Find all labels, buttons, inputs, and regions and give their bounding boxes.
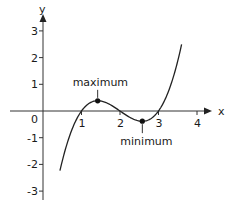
maximum-point: [95, 98, 100, 103]
y-tick-label: 3: [31, 25, 38, 38]
x-axis-label: x: [218, 105, 225, 118]
minimum-label: minimum: [120, 135, 172, 148]
cubic-graph: xy0 1234321-1-2-3 maximumminimum: [0, 0, 238, 210]
y-tick-label: 1: [31, 78, 38, 91]
x-tick-label: 4: [194, 117, 201, 130]
cubic-curve: [60, 44, 182, 170]
maximum-label: maximum: [73, 76, 128, 89]
x-tick-label: 1: [79, 117, 86, 130]
ticks: 1234321-1-2-3: [27, 25, 201, 198]
y-tick-label: -1: [27, 132, 38, 145]
x-tick-label: 3: [156, 117, 163, 130]
minimum-point: [140, 119, 145, 124]
origin-label: 0: [31, 113, 38, 126]
y-tick-label: 2: [31, 52, 38, 65]
axes: xy0: [10, 3, 225, 200]
y-axis-label: y: [39, 3, 46, 16]
x-tick-label: 2: [117, 117, 124, 130]
y-tick-label: -2: [27, 158, 38, 171]
x-axis-arrow-icon: [204, 108, 212, 115]
y-tick-label: -3: [27, 185, 38, 198]
